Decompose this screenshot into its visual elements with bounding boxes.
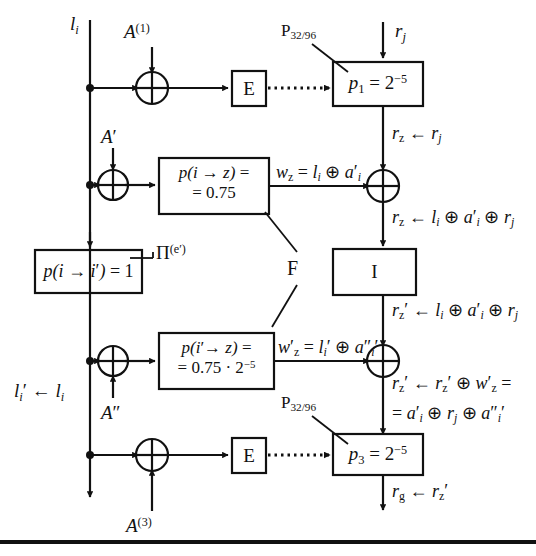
label-key-adoubleprime: A″ (101, 403, 121, 423)
pz-top-box-label: p(i → z) = = 0.75 (161, 163, 267, 203)
label-after-xor-bottom-2: = a′i ⊕ rj ⊕ a″i′ (392, 404, 505, 425)
branch-row-4 (90, 455, 228, 511)
p1-tag-leader (312, 44, 348, 72)
footer-rule (0, 540, 536, 544)
p3-tag-leader (312, 416, 348, 444)
label-key-a3: A(3) (126, 516, 152, 536)
label-wz-top: wz = li ⊕ a′i (276, 163, 361, 184)
p-tag-bottom-label: P32/96 (281, 394, 316, 414)
xor-gate-3 (98, 346, 128, 376)
label-after-i: rz′ ← li ⊕ a′i ⊕ rj (392, 301, 518, 322)
figure-canvas: li A(1) A′ A″ A(3) li′ ← li E E I p1 = 2… (0, 0, 536, 556)
label-wz-bottom: w′z = li′ ⊕ a″i′ (278, 338, 378, 359)
e-box-top-label: E (232, 78, 266, 100)
label-key-a1: A(1) (124, 22, 150, 42)
label-rj-input: rj (395, 21, 406, 44)
f-label: F (287, 258, 298, 279)
xor-gate-1 (136, 72, 168, 104)
xor-gate-2 (98, 170, 128, 200)
label-after-p1: rz ← rj (392, 124, 442, 145)
pi-tag-label: Π(e′) (156, 243, 186, 263)
branch-row-1 (90, 47, 228, 88)
i-box-label: I (333, 261, 416, 283)
e-box-bottom-label: E (232, 445, 266, 467)
xor-gate-4 (136, 439, 168, 471)
label-li-prime-out: li′ ← li (14, 381, 64, 404)
p1-box-label: p1 = 2−5 (333, 72, 423, 96)
p-tag-top-label: P32/96 (281, 22, 316, 42)
label-key-aprime: A′ (101, 127, 117, 147)
p3-box-label: p3 = 2−5 (333, 443, 423, 467)
pz-bottom-box-label: p(i′→ z) = = 0.75 · 2−5 (161, 338, 272, 379)
pii-box-label: p(i → i′) = 1 (35, 261, 142, 282)
label-li-input: li (70, 14, 79, 37)
label-after-xor-bottom-1: rz′ ← rz′ ⊕ w′z = (392, 374, 511, 395)
label-rg-output: rg ← rz′ (392, 482, 448, 503)
xor-gate-right-top (367, 170, 399, 202)
label-after-xor-top: rz ← li ⊕ a′i ⊕ rj (392, 208, 514, 229)
